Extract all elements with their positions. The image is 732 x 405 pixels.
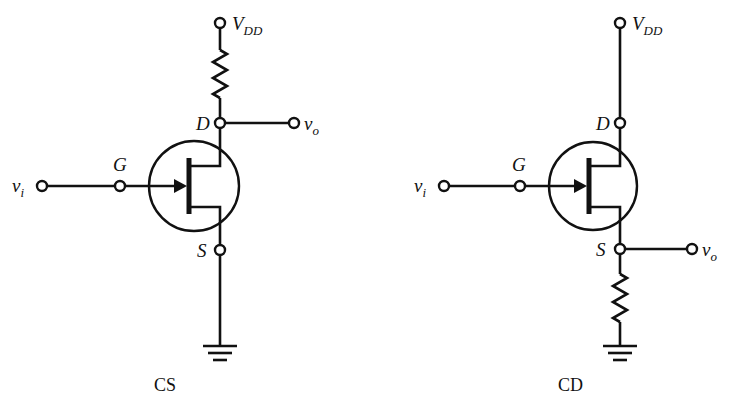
input-label: vi xyxy=(12,175,24,200)
cs-caption: CS xyxy=(154,375,176,395)
gate-arrow-icon xyxy=(174,179,187,193)
gate-terminal xyxy=(515,181,525,191)
gate-label: G xyxy=(512,154,526,175)
drain-resistor xyxy=(213,50,227,98)
cs-circuit: VDD D vo vi G S CS xyxy=(12,13,319,395)
drain-terminal xyxy=(215,118,225,128)
output-terminal xyxy=(687,244,697,254)
source-label: S xyxy=(197,240,207,261)
input-label: vi xyxy=(414,175,426,200)
drain-label: D xyxy=(595,113,610,134)
input-terminal xyxy=(439,181,449,191)
circuit-diagrams: VDD D vo vi G S CS xyxy=(0,0,732,405)
cd-circuit: VDD D vi G S vo C xyxy=(414,13,717,395)
source-terminal xyxy=(615,244,625,254)
jfet-symbol xyxy=(525,128,637,244)
cd-caption: CD xyxy=(558,375,583,395)
jfet-symbol xyxy=(125,128,239,245)
output-label: vo xyxy=(702,239,717,264)
gate-label: G xyxy=(113,154,127,175)
source-resistor xyxy=(613,274,627,322)
gate-terminal xyxy=(115,181,125,191)
drain-terminal xyxy=(615,118,625,128)
output-label: vo xyxy=(304,113,319,138)
ground-icon xyxy=(603,346,637,360)
source-label: S xyxy=(596,239,606,260)
vdd-label: VDD xyxy=(232,13,263,38)
input-terminal xyxy=(37,181,47,191)
vdd-label: VDD xyxy=(632,13,663,38)
drain-label: D xyxy=(195,113,210,134)
ground-icon xyxy=(203,346,237,360)
output-terminal xyxy=(289,118,299,128)
vdd-terminal xyxy=(615,18,625,28)
source-terminal xyxy=(215,245,225,255)
vdd-terminal xyxy=(215,18,225,28)
gate-arrow-icon xyxy=(574,179,587,193)
